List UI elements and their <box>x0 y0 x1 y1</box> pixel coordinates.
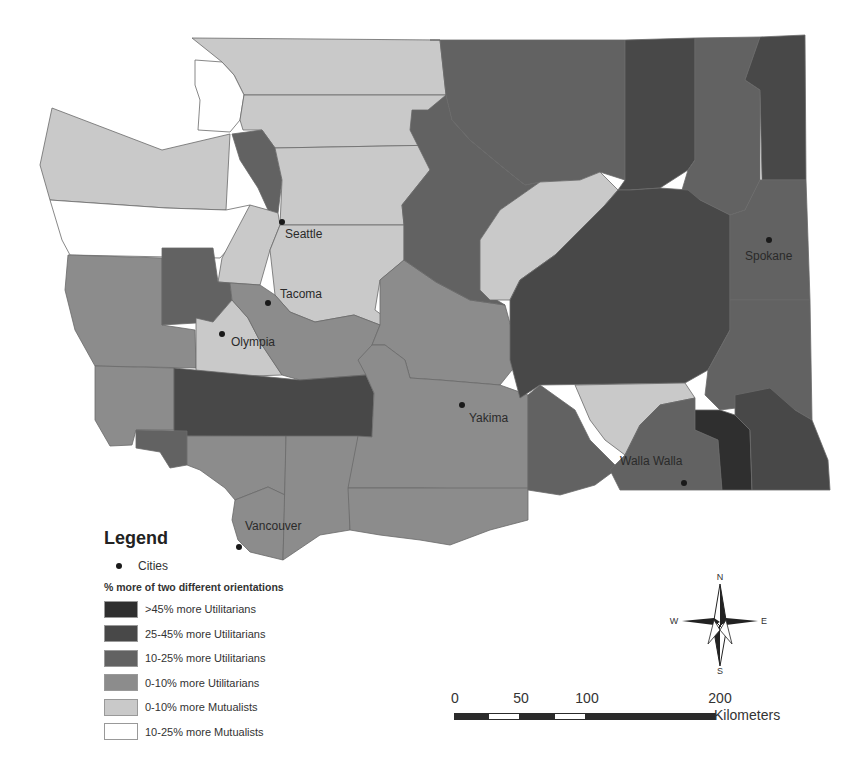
county-klickitat <box>348 488 528 545</box>
legend-swatch <box>104 650 138 667</box>
city-dot-yakima <box>459 402 465 408</box>
legend-item-label: 10-25% more Utilitarians <box>145 652 265 664</box>
city-label-seattle: Seattle <box>285 227 323 241</box>
legend-item-label: 0-10% more Mutualists <box>145 701 258 713</box>
legend-swatch <box>104 674 138 691</box>
county-lewis <box>174 368 374 437</box>
legend-item-label: 25-45% more Utilitarians <box>145 628 265 640</box>
city-dot-olympia <box>219 331 225 337</box>
scale-segment <box>586 713 716 720</box>
city-dot-icon <box>116 563 122 569</box>
compass-s-label: S <box>717 666 723 676</box>
legend-item: 0-10% more Mutualists <box>104 695 344 720</box>
city-label-yakima: Yakima <box>469 411 508 425</box>
city-label-olympia: Olympia <box>231 335 275 349</box>
scale-segment <box>488 713 520 720</box>
county-wahkiakum <box>136 430 187 468</box>
legend-swatch <box>104 699 138 716</box>
legend-item-label: 10-25% more Mutualists <box>145 726 264 738</box>
scale-tick-0: 0 <box>451 690 459 706</box>
legend-title: Legend <box>104 528 344 549</box>
scale-segment <box>520 713 554 720</box>
legend-cities-entry: Cities <box>116 557 344 575</box>
legend-swatch <box>104 601 138 618</box>
city-label-spokane: Spokane <box>745 249 793 263</box>
city-dot-spokane <box>766 237 772 243</box>
county-ferry <box>618 38 695 190</box>
north-arrow-compass-icon: N S W E <box>668 568 772 678</box>
legend-item: 25-45% more Utilitarians <box>104 622 344 647</box>
city-dot-walla-walla <box>681 480 687 486</box>
legend-swatch <box>104 723 138 740</box>
legend-item-label: >45% more Utilitarians <box>145 603 256 615</box>
compass-e-label: E <box>761 616 767 626</box>
legend-subtitle: % more of two different orientations <box>104 581 344 593</box>
city-label-tacoma: Tacoma <box>280 287 322 301</box>
legend-item: >45% more Utilitarians <box>104 597 344 622</box>
legend-item: 10-25% more Utilitarians <box>104 646 344 671</box>
legend-item: 10-25% more Mutualists <box>104 720 344 745</box>
scale-tick-50: 50 <box>513 690 529 706</box>
compass-n-label: N <box>717 572 724 582</box>
city-dot-seattle <box>279 219 285 225</box>
scale-tick-200: 200 <box>708 690 731 706</box>
legend-item-label: 0-10% more Utilitarians <box>145 677 259 689</box>
city-dot-tacoma <box>265 300 271 306</box>
scale-segment <box>454 713 488 720</box>
legend: Legend Cities % more of two different or… <box>104 528 344 744</box>
legend-swatch <box>104 625 138 642</box>
scale-segment <box>554 713 586 720</box>
scale-bar: 0 50 100 200 Kilometers <box>450 690 800 730</box>
legend-cities-label: Cities <box>138 559 168 573</box>
city-label-walla-walla: Walla Walla <box>620 454 683 468</box>
compass-w-label: W <box>670 616 679 626</box>
legend-item: 0-10% more Utilitarians <box>104 671 344 696</box>
scale-units-label: Kilometers <box>714 707 780 723</box>
scale-tick-100: 100 <box>575 690 598 706</box>
